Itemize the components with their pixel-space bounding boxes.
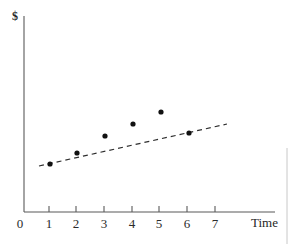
data-point (130, 121, 135, 126)
x-axis-title: Time (251, 216, 278, 229)
data-point (158, 109, 163, 114)
y-axis-title: $ (12, 10, 18, 22)
data-point-group (47, 109, 191, 166)
x-tick-label-5: 5 (156, 217, 163, 230)
x-tick-label-3: 3 (101, 217, 108, 230)
chart-figure: $ Time 0 1 2 3 4 5 6 7 (0, 0, 294, 244)
x-tick-label-origin: 0 (17, 217, 24, 230)
x-tick-label-6: 6 (184, 217, 191, 230)
data-point (47, 161, 52, 166)
x-tick-label-7: 7 (212, 217, 219, 230)
data-point (102, 133, 107, 138)
x-tick-label-2: 2 (73, 217, 80, 230)
data-point (186, 130, 191, 135)
x-axis-ticks (49, 206, 215, 212)
scatter-plot-canvas (0, 0, 294, 244)
x-tick-label-4: 4 (129, 217, 136, 230)
data-point (74, 150, 79, 155)
x-tick-label-1: 1 (46, 217, 53, 230)
trend-line (39, 124, 227, 166)
